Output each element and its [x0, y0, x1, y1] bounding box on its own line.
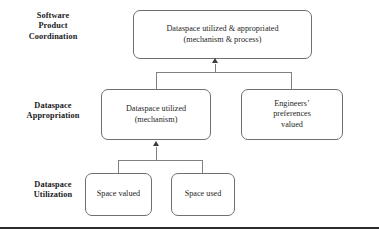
connector-riser-to-dataspace-utilized-appropriated — [215, 64, 216, 72]
connector-stem-space-valued — [118, 160, 119, 173]
figure-bottom-rule — [0, 227, 379, 229]
node-label-engineers-preferences-valued: Engineers’ preferences valued — [273, 99, 311, 130]
node-space-used[interactable]: Space used — [171, 173, 235, 216]
node-dataspace-utilized-appropriated[interactable]: Dataspace utilized & appropriated (mecha… — [133, 10, 312, 59]
connector-riser-to-dataspace-utilized-mechanism — [156, 147, 157, 160]
connector-stem-space-used — [202, 160, 203, 173]
node-label-space-valued: Space valued — [97, 189, 140, 199]
node-space-valued[interactable]: Space valued — [85, 173, 152, 216]
node-label-dataspace-utilized-mechanism: Dataspace utilized (mechanism) — [126, 104, 186, 124]
node-label-dataspace-utilized-appropriated: Dataspace utilized & appropriated (mecha… — [166, 24, 278, 44]
connector-stem-dataspace-utilized-mechanism — [156, 72, 157, 89]
connector-bar-appropriation-to-coordination — [156, 72, 292, 73]
connector-bar-utilization-to-appropriation — [118, 160, 203, 161]
tier-label-software-product-coordination: Software Product Coordination — [6, 11, 100, 42]
tier-label-dataspace-appropriation: Dataspace Appropriation — [6, 101, 100, 122]
node-engineers-preferences-valued[interactable]: Engineers’ preferences valued — [241, 89, 343, 140]
connector-stem-engineers-preferences-valued — [291, 72, 292, 89]
arrowhead-up-icon-to-dataspace-utilized-mechanism — [153, 141, 159, 146]
node-label-space-used: Space used — [185, 189, 222, 199]
node-dataspace-utilized-mechanism[interactable]: Dataspace utilized (mechanism) — [101, 89, 211, 140]
arrowhead-up-icon-to-dataspace-utilized-appropriated — [212, 58, 218, 63]
diagram-canvas: Software Product Coordination Dataspace … — [0, 0, 379, 236]
